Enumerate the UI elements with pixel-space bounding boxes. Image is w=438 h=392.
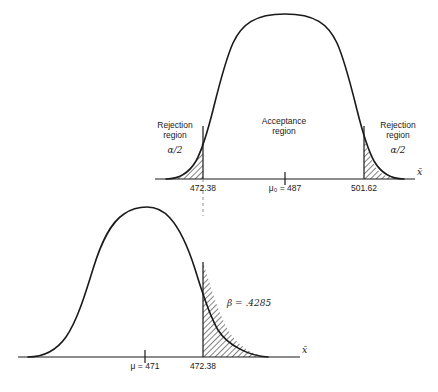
left-rejection-label-line2: region — [157, 131, 192, 141]
null-distribution-panel — [155, 14, 415, 185]
left-alpha-label: α/2 — [168, 145, 183, 155]
acceptance-label-line2: region — [262, 127, 306, 137]
beta-value-label: β = .4285 — [227, 298, 271, 308]
alternative-normal-curve — [28, 207, 268, 357]
beta-boundary-label: 472.38 — [190, 362, 216, 372]
lower-critical-value-label: 472.38 — [190, 184, 216, 194]
null-axis-symbol: x̄ — [417, 167, 422, 178]
acceptance-region-label: Acceptance region — [262, 117, 306, 137]
statistics-figure — [0, 0, 438, 392]
beta-shading — [203, 262, 268, 357]
alternative-mean-label: μ = 471 — [131, 362, 160, 372]
upper-critical-value-label: 501.62 — [351, 184, 377, 194]
right-alpha-label: α/2 — [391, 145, 406, 155]
alternative-axis-symbol: x̄ — [302, 345, 307, 356]
right-rejection-region-label: Rejection region — [380, 121, 415, 141]
alternative-distribution-panel — [18, 207, 300, 363]
left-rejection-region-label: Rejection region — [157, 121, 192, 141]
null-mean-label: μ₀ = 487 — [269, 184, 301, 194]
right-rejection-label-line2: region — [380, 131, 415, 141]
